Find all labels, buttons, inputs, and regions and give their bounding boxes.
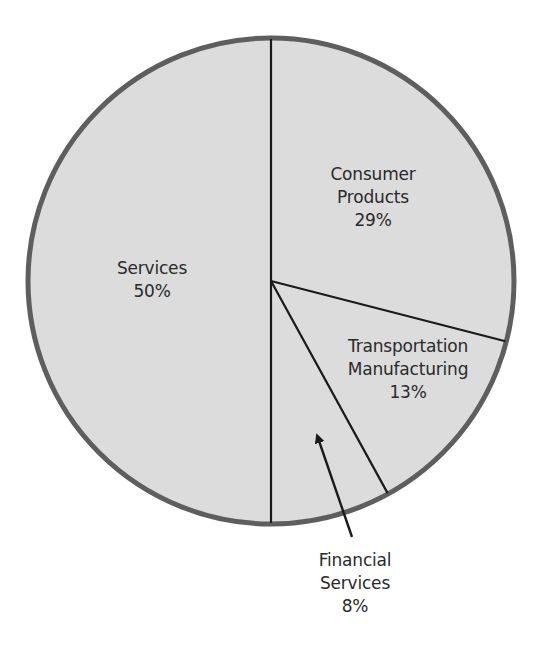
label-text: Transportation (328, 335, 488, 358)
label-consumer-products: Consumer Products 29% (318, 163, 428, 232)
label-percent: 8% (300, 595, 410, 618)
label-text: Services (300, 572, 410, 595)
label-services: Services 50% (100, 257, 204, 303)
label-percent: 50% (100, 280, 204, 303)
label-percent: 29% (318, 209, 428, 232)
label-text: Financial (300, 549, 410, 572)
label-text: Products (318, 186, 428, 209)
label-text: Consumer (318, 163, 428, 186)
label-text: Services (100, 257, 204, 280)
pie-chart (0, 0, 534, 654)
label-financial-services: Financial Services 8% (300, 549, 410, 618)
label-percent: 13% (328, 381, 488, 404)
label-text: Manufacturing (328, 358, 488, 381)
label-transportation-manufacturing: Transportation Manufacturing 13% (328, 335, 488, 404)
